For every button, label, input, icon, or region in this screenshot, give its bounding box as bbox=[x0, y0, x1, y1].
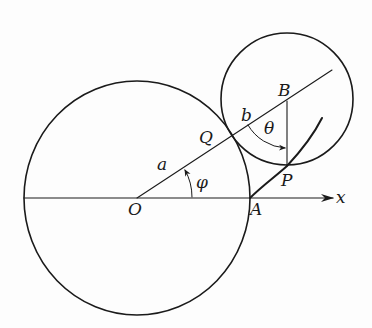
label-angle-phi: φ bbox=[196, 172, 208, 192]
label-radius-a: a bbox=[157, 154, 167, 174]
label-point-p: P bbox=[280, 170, 293, 190]
epicycloid-diagram: O A B Q P a b φ θ x bbox=[0, 0, 372, 328]
label-point-b: B bbox=[277, 80, 291, 100]
label-origin: O bbox=[128, 199, 142, 219]
label-angle-theta: θ bbox=[264, 118, 274, 138]
label-radius-b: b bbox=[241, 105, 252, 125]
label-point-a: A bbox=[248, 199, 262, 219]
center-line-ob bbox=[137, 70, 332, 198]
label-x-axis: x bbox=[336, 187, 346, 207]
label-point-q: Q bbox=[199, 127, 213, 147]
phi-angle-arc bbox=[185, 170, 192, 197]
